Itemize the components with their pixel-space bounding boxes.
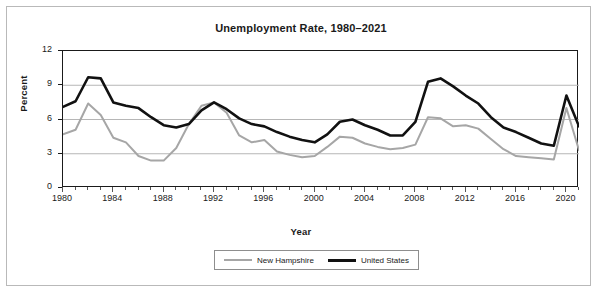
chart-legend: New Hampshire United States [214, 250, 419, 270]
x-tick-label: 2000 [294, 193, 334, 203]
plot-lines [63, 51, 579, 188]
x-tick-label: 2016 [495, 193, 535, 203]
y-tick-label: 6 [26, 113, 52, 123]
x-tick-label: 2004 [344, 193, 384, 203]
gridlines [63, 85, 579, 154]
series-group [63, 77, 579, 160]
y-tick-label: 12 [26, 44, 52, 54]
plot-area [62, 50, 578, 187]
legend-swatch-line-icon [224, 259, 252, 261]
series-line-united-states [63, 77, 579, 146]
x-tick-label: 1988 [143, 193, 183, 203]
x-tick-label: 2008 [394, 193, 434, 203]
x-tick-label: 1984 [92, 193, 132, 203]
legend-item-new-hampshire: New Hampshire [224, 256, 314, 265]
series-line-new-hampshire [63, 102, 579, 160]
x-tick-label: 1992 [193, 193, 233, 203]
x-tick-label: 2020 [545, 193, 585, 203]
x-tick-label: 1996 [243, 193, 283, 203]
legend-label-united-states: United States [361, 256, 409, 265]
chart-title: Unemployment Rate, 1980–2021 [0, 22, 602, 34]
x-axis-label: Year [0, 226, 602, 237]
y-axis-label: Percent [18, 49, 29, 139]
x-tick-label: 2012 [445, 193, 485, 203]
legend-label-new-hampshire: New Hampshire [257, 256, 314, 265]
chart-figure: Unemployment Rate, 1980–2021 Percent Yea… [0, 0, 602, 297]
x-tick-label: 1980 [42, 193, 82, 203]
y-tick-label: 0 [26, 181, 52, 191]
y-tick-label: 9 [26, 78, 52, 88]
y-tick-label: 3 [26, 147, 52, 157]
legend-swatch-line-icon [328, 259, 356, 262]
legend-item-united-states: United States [328, 256, 409, 265]
